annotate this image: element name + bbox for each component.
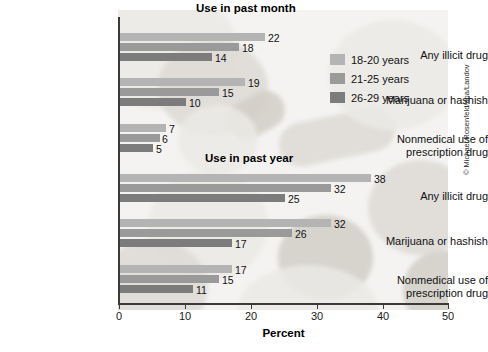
bar-value-month-illicit-21-25: 18 bbox=[242, 43, 254, 53]
bar-year-illicit-18-20 bbox=[120, 174, 371, 182]
legend-item-26-29: 26-29 years bbox=[330, 88, 409, 103]
bar-value-year-illicit-26-29: 25 bbox=[288, 194, 300, 204]
x-tick-30 bbox=[317, 303, 318, 309]
legend-swatch-18-20-icon bbox=[330, 54, 345, 65]
bar-value-year-illicit-21-25: 32 bbox=[334, 184, 346, 194]
legend-swatch-21-25-icon bbox=[330, 73, 345, 84]
chart-figure: Use in past month Use in past year Any i… bbox=[0, 0, 488, 352]
bar-month-prescription-18-20 bbox=[120, 124, 166, 132]
legend-item-21-25: 21-25 years bbox=[330, 69, 409, 84]
bar-value-month-prescription-26-29: 5 bbox=[156, 144, 162, 154]
legend-swatch-26-29-icon bbox=[330, 92, 345, 103]
bar-value-year-marijuana-26-29: 17 bbox=[235, 239, 247, 249]
bar-year-illicit-21-25 bbox=[120, 184, 331, 192]
bar-year-prescription-18-20 bbox=[120, 265, 232, 273]
bar-month-marijuana-21-25 bbox=[120, 88, 219, 96]
x-tick-label-10: 10 bbox=[170, 310, 200, 322]
bar-year-marijuana-21-25 bbox=[120, 229, 292, 237]
bar-year-marijuana-18-20 bbox=[120, 219, 331, 227]
bar-value-year-illicit-18-20: 38 bbox=[374, 174, 386, 184]
bar-year-prescription-21-25 bbox=[120, 275, 219, 283]
bar-value-month-marijuana-26-29: 10 bbox=[189, 98, 201, 108]
bar-year-marijuana-26-29 bbox=[120, 239, 232, 247]
x-tick-label-30: 30 bbox=[302, 310, 332, 322]
bar-month-prescription-21-25 bbox=[120, 134, 160, 142]
x-tick-label-20: 20 bbox=[236, 310, 266, 322]
x-tick-50 bbox=[448, 303, 449, 309]
bar-month-illicit-18-20 bbox=[120, 33, 265, 41]
bar-year-illicit-26-29 bbox=[120, 194, 285, 202]
bar-value-month-marijuana-18-20: 19 bbox=[248, 78, 260, 88]
bar-value-year-marijuana-21-25: 26 bbox=[295, 229, 307, 239]
panel-title-past-year: Use in past year bbox=[205, 152, 293, 164]
legend-label-18-20: 18-20 years bbox=[351, 54, 409, 66]
chart-legend: 18-20 years 21-25 years 26-29 years bbox=[330, 50, 409, 107]
x-tick-0 bbox=[119, 303, 120, 309]
bar-value-month-marijuana-21-25: 15 bbox=[222, 88, 234, 98]
bar-month-illicit-21-25 bbox=[120, 43, 239, 51]
legend-label-21-25: 21-25 years bbox=[351, 73, 409, 85]
bar-value-year-prescription-18-20: 17 bbox=[235, 265, 247, 275]
panel-title-past-month: Use in past month bbox=[196, 2, 296, 14]
x-tick-40 bbox=[383, 303, 384, 309]
photo-credit: © Michael Rosenfeld/dpa/Landov bbox=[462, 64, 471, 175]
y-axis-line bbox=[118, 17, 120, 303]
bar-value-month-prescription-18-20: 7 bbox=[169, 124, 175, 134]
x-axis-line bbox=[118, 303, 449, 305]
bar-month-prescription-26-29 bbox=[120, 144, 153, 152]
legend-item-18-20: 18-20 years bbox=[330, 50, 409, 65]
x-tick-10 bbox=[185, 303, 186, 309]
bar-value-year-prescription-21-25: 15 bbox=[222, 275, 234, 285]
category-label-any-illicit-drug-year: Any illicit drug bbox=[376, 190, 488, 203]
bar-month-marijuana-26-29 bbox=[120, 98, 186, 106]
x-tick-20 bbox=[251, 303, 252, 309]
category-label-prescription-month: Nonmedical use of prescription drug bbox=[376, 133, 488, 158]
bar-value-month-prescription-21-25: 6 bbox=[162, 134, 168, 144]
legend-label-26-29: 26-29 years bbox=[351, 92, 409, 104]
x-tick-label-50: 50 bbox=[433, 310, 463, 322]
x-tick-label-0: 0 bbox=[104, 310, 134, 322]
bar-value-month-illicit-18-20: 22 bbox=[268, 33, 280, 43]
category-label-prescription-year: Nonmedical use of prescription drug bbox=[376, 274, 488, 299]
bar-month-illicit-26-29 bbox=[120, 53, 212, 61]
bar-year-prescription-26-29 bbox=[120, 285, 193, 293]
bar-value-year-marijuana-18-20: 32 bbox=[334, 219, 346, 229]
bar-month-marijuana-18-20 bbox=[120, 78, 245, 86]
x-tick-label-40: 40 bbox=[368, 310, 398, 322]
x-axis-title: Percent bbox=[118, 327, 449, 339]
bar-value-month-illicit-26-29: 14 bbox=[215, 53, 227, 63]
category-label-marijuana-year: Marijuana or hashish bbox=[376, 235, 488, 248]
bar-value-year-prescription-26-29: 11 bbox=[196, 285, 207, 295]
